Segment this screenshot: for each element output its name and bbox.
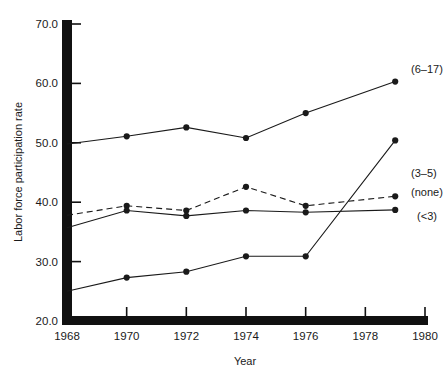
y-tick-label: 40.0	[36, 196, 58, 208]
series-label-none: (none)	[411, 186, 443, 198]
data-point	[303, 253, 309, 259]
data-point	[392, 79, 398, 85]
figure-caption	[0, 369, 446, 381]
data-point	[303, 209, 309, 215]
x-tick-label: 1974	[233, 330, 259, 342]
line-chart: 20.030.040.050.060.070.0 196819701972197…	[0, 0, 446, 381]
data-point	[183, 207, 189, 213]
data-point	[392, 137, 398, 143]
data-point	[183, 213, 189, 219]
data-point	[243, 207, 249, 213]
x-tick-label: 1968	[54, 330, 80, 342]
x-tick-label: 1980	[412, 330, 438, 342]
data-point	[303, 203, 309, 209]
figure-container: 20.030.040.050.060.070.0 196819701972197…	[0, 0, 446, 381]
data-point	[183, 269, 189, 275]
data-point	[124, 207, 130, 213]
series-label-6-17: (6–17)	[411, 63, 443, 75]
x-tick-label: 1978	[353, 330, 379, 342]
series-label-3-5: (3–5)	[411, 167, 437, 179]
data-point	[124, 275, 130, 281]
y-tick-label: 30.0	[36, 256, 58, 268]
data-point	[243, 135, 249, 141]
x-axis-spine	[62, 316, 428, 325]
series-label-3: (<3)	[417, 210, 437, 222]
data-point	[124, 133, 130, 139]
x-tick-label: 1970	[114, 330, 140, 342]
x-axis-title: Year	[234, 355, 257, 367]
y-tick-label: 20.0	[36, 315, 58, 327]
data-point	[392, 207, 398, 213]
x-tick-label: 1976	[293, 330, 319, 342]
data-point	[243, 184, 249, 190]
data-point	[243, 253, 249, 259]
x-tick-label: 1972	[174, 330, 200, 342]
y-tick-label: 50.0	[36, 137, 58, 149]
data-point	[392, 193, 398, 199]
y-tick-label: 70.0	[36, 18, 58, 30]
y-tick-label: 60.0	[36, 77, 58, 89]
data-point	[303, 110, 309, 116]
y-axis-spine	[62, 20, 72, 324]
y-axis-title: Labor force participation rate	[12, 102, 24, 242]
data-point	[183, 124, 189, 130]
